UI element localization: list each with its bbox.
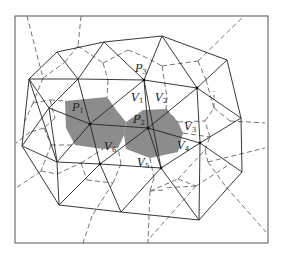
- label-v2: V2: [155, 91, 167, 105]
- label-v1: V1: [131, 91, 143, 105]
- label-p3: P3: [134, 62, 147, 76]
- label-v5: V5: [137, 156, 149, 170]
- label-v4: V4: [177, 139, 190, 153]
- label-v3: V3: [184, 120, 196, 134]
- triangulation-diagram: P1 P2 P3 V1 V2 V3 V4 V5 V6: [0, 0, 295, 259]
